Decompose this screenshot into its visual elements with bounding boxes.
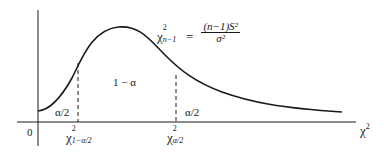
lower-critical-label: χ21−α/2: [66, 131, 96, 144]
formula-equals: =: [186, 29, 193, 44]
formula-denominator: σ²: [201, 33, 240, 44]
formula-lhs: χ2n−1: [157, 29, 182, 44]
upper-critical-label: χ2α/2: [167, 131, 189, 144]
center-region-label: 1 − α: [113, 77, 136, 88]
formula: χ2n−1 = (n−1)S² σ²: [157, 26, 240, 49]
right-tail-label: α/2: [185, 107, 199, 118]
formula-fraction: (n−1)S² σ²: [201, 21, 240, 44]
origin-label: 0: [27, 127, 33, 138]
x-axis-label: χ2: [360, 124, 370, 137]
chi-square-diagram: χ2n−1 = (n−1)S² σ² α/2 1 − α α/2 0 χ21−α…: [0, 0, 387, 154]
diagram-canvas: [0, 0, 387, 154]
left-tail-label: α/2: [55, 107, 69, 118]
